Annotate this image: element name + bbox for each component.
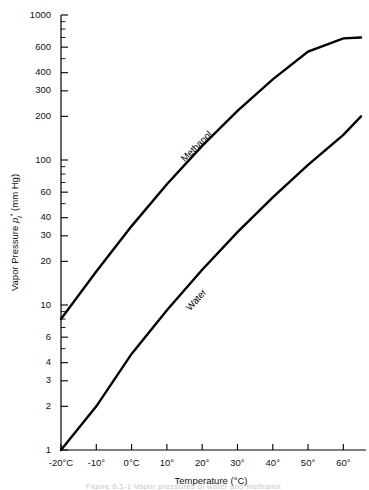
x-tick-label: 30° [230, 457, 245, 468]
figure-caption: Figure 6.1-1 Vapor pressures of water an… [0, 481, 369, 490]
x-tick-label: 10° [160, 457, 175, 468]
y-tick-label: 20 [40, 255, 51, 266]
x-axis-group: -20°C-10°0°C10°20°30°40°50°60° [49, 444, 366, 468]
y-tick-label: 100 [35, 154, 51, 165]
y-axis-title-subscript: i [16, 216, 23, 218]
y-tick-label: 4 [46, 356, 51, 367]
series-line-methanol [61, 37, 361, 319]
y-tick-label: 200 [35, 110, 51, 121]
y-axis-title-units: (mm Hg) [9, 174, 20, 214]
x-tick-label: 60° [336, 457, 351, 468]
y-axis-title-text: Vapor Pressure [9, 223, 20, 291]
x-tick-label: 0°C [124, 457, 140, 468]
x-tick-label: -10° [88, 457, 106, 468]
y-tick-label: 600 [35, 41, 51, 52]
y-tick-label: 3 [46, 374, 51, 385]
vapor-pressure-figure: 1234610203040601002003004006001000 -20°C… [0, 0, 369, 490]
y-tick-label: 60 [40, 186, 51, 197]
x-tick-label: 20° [195, 457, 210, 468]
y-axis-title: Vapor Pressure pi* (mm Hg) [9, 174, 23, 291]
y-tick-label: 6 [46, 331, 51, 342]
series-label-methanol: Methanol [178, 128, 213, 163]
x-tick-label: 50° [301, 457, 316, 468]
series-group: MethanolWater [61, 37, 361, 450]
y-tick-label: 2 [46, 400, 51, 411]
x-tick-label: -20°C [49, 457, 74, 468]
y-tick-label: 400 [35, 66, 51, 77]
y-tick-label: 1 [46, 444, 51, 455]
y-tick-label: 10 [40, 299, 51, 310]
chart-canvas: 1234610203040601002003004006001000 -20°C… [0, 0, 369, 490]
y-axis-group: 1234610203040601002003004006001000 [30, 9, 68, 455]
y-tick-label: 30 [40, 229, 51, 240]
y-tick-label: 40 [40, 211, 51, 222]
series-label-water: Water [184, 287, 209, 313]
y-tick-label: 300 [35, 84, 51, 95]
y-tick-label: 1000 [30, 9, 51, 20]
x-tick-label: 40° [266, 457, 281, 468]
series-line-water [61, 116, 361, 450]
